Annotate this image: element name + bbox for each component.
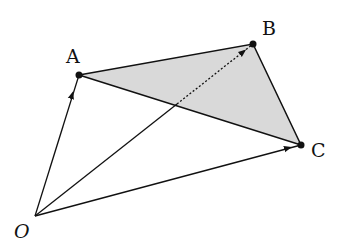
point-b <box>250 41 257 48</box>
label-c: C <box>311 139 326 161</box>
vector-diagram: A B C O <box>0 0 347 243</box>
vector-oc <box>35 145 301 216</box>
point-c <box>298 142 305 149</box>
vector-oa <box>35 75 79 216</box>
point-a <box>76 72 83 79</box>
label-o: O <box>14 220 30 242</box>
label-b: B <box>262 17 276 39</box>
label-a: A <box>65 45 80 67</box>
vector-ob-solid <box>35 104 177 216</box>
